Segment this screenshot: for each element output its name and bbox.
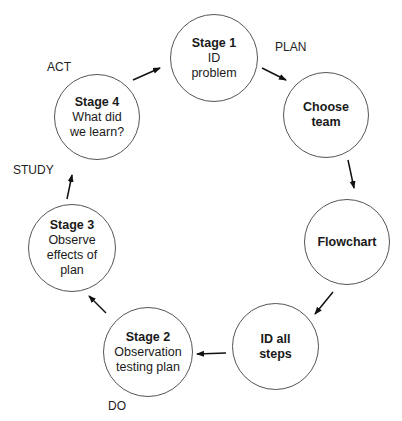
node-title: Stage 2 xyxy=(126,330,170,345)
arrow-stage3-to-stage4 xyxy=(67,175,72,199)
node-title: Flowchart xyxy=(317,235,376,250)
node-desc: we learn? xyxy=(70,125,124,140)
phase-label-act: ACT xyxy=(47,60,71,74)
node-stage2[interactable]: Stage 2 Observation testing plan xyxy=(103,307,193,397)
node-title: team xyxy=(311,115,340,130)
node-stage1[interactable]: Stage 1 ID problem xyxy=(170,14,258,102)
node-desc: ID xyxy=(208,51,221,66)
node-title: ID all xyxy=(261,332,291,347)
arrow-stage2-to-stage3 xyxy=(89,296,106,313)
node-desc: effects of xyxy=(47,248,98,263)
node-desc: problem xyxy=(191,66,236,81)
node-desc: testing plan xyxy=(116,360,180,375)
node-title: Stage 1 xyxy=(192,36,236,51)
node-stage4[interactable]: Stage 4 What did we learn? xyxy=(54,74,140,160)
node-desc: Observe xyxy=(48,233,95,248)
node-choose-team[interactable]: Choose team xyxy=(283,72,369,158)
phase-label-plan: PLAN xyxy=(275,40,306,54)
phase-label-study: STUDY xyxy=(13,163,54,177)
arrow-id-all-steps-to-stage2 xyxy=(197,353,226,354)
node-title: Stage 3 xyxy=(50,218,94,233)
arrow-stage4-to-stage1 xyxy=(133,68,160,80)
node-title: Choose xyxy=(303,100,349,115)
node-flowchart[interactable]: Flowchart xyxy=(304,199,390,285)
node-desc: plan xyxy=(60,263,84,278)
arrow-flowchart-to-id-all-steps xyxy=(315,292,333,314)
node-title: Stage 4 xyxy=(75,95,119,110)
node-title: steps xyxy=(259,347,292,362)
arrow-stage1-to-choose-team xyxy=(262,68,286,80)
node-desc: Observation xyxy=(114,345,181,360)
arrow-choose-team-to-flowchart xyxy=(348,160,354,188)
phase-label-do: DO xyxy=(108,399,126,413)
node-desc: What did xyxy=(72,110,121,125)
node-id-all-steps[interactable]: ID all steps xyxy=(232,303,319,390)
node-stage3[interactable]: Stage 3 Observe effects of plan xyxy=(28,204,116,292)
